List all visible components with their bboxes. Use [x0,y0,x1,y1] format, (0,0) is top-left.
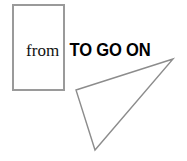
word-to-go-on: TO GO ON [70,40,151,60]
word-from: from [26,41,59,61]
image-canvas: from TO GO ON [0,0,187,161]
triangle-outline [76,59,173,150]
shape-layer [0,0,187,161]
text-row: from TO GO ON [26,40,155,61]
